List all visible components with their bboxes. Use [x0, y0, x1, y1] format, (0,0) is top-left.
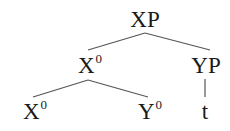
- edge-x0-y0: [88, 80, 148, 97]
- node-x0-mid: X0: [78, 54, 102, 77]
- node-label: X: [78, 53, 95, 78]
- node-label: X: [23, 99, 40, 124]
- node-label: YP: [191, 53, 220, 78]
- node-superscript: 0: [41, 97, 48, 112]
- node-label: XP: [130, 7, 159, 32]
- edge-xp-x0: [88, 33, 145, 50]
- syntax-tree-diagram: XP X0 YP X0 Y0 t: [0, 0, 230, 131]
- node-label: t: [202, 99, 208, 124]
- edge-x0-x0: [33, 80, 88, 97]
- node-y0-leaf: Y0: [138, 100, 162, 123]
- node-x0-leaf: X0: [23, 100, 47, 123]
- node-label: Y: [138, 99, 155, 124]
- node-yp: YP: [191, 54, 220, 77]
- edge-xp-yp: [145, 33, 210, 50]
- node-superscript: 0: [96, 51, 103, 66]
- node-superscript: 0: [156, 97, 163, 112]
- node-xp: XP: [130, 8, 159, 31]
- node-trace: t: [202, 100, 208, 123]
